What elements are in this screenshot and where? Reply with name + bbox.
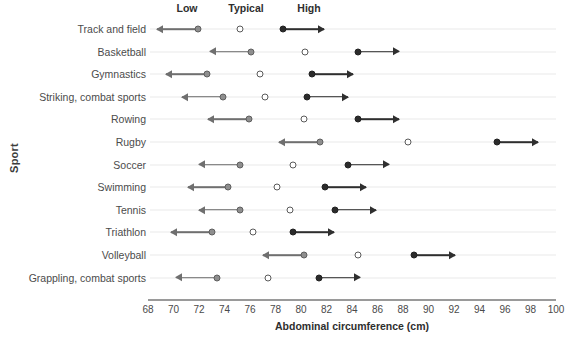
high-marker-dot [411, 252, 418, 259]
sport-row: Track and field [0, 18, 570, 40]
arrow-right-head-icon [393, 48, 400, 56]
arrow-right-head-icon [328, 228, 335, 236]
row-gridline [150, 29, 556, 30]
sport-row: Tennis [0, 199, 570, 221]
arrow-left-head-icon [165, 70, 172, 78]
arrow-left-head-icon [207, 115, 214, 123]
low-marker-dot [317, 139, 324, 146]
high-range-arrow [348, 164, 389, 166]
high-marker-dot [355, 48, 362, 55]
typical-marker-dot [355, 252, 362, 259]
x-tick-label: 84 [346, 304, 357, 315]
low-range-arrow [182, 96, 223, 98]
typical-marker-dot [273, 184, 280, 191]
sport-row: Soccer [0, 154, 570, 176]
high-marker-dot [322, 184, 329, 191]
low-marker-dot [220, 93, 227, 100]
sport-row-label: Basketball [98, 46, 146, 58]
typical-marker-dot [286, 206, 293, 213]
x-tick-label: 92 [448, 304, 459, 315]
arrow-left-head-icon [198, 161, 205, 169]
typical-marker-dot [301, 48, 308, 55]
arrow-right-head-icon [449, 251, 456, 259]
x-tick-label: 80 [295, 304, 306, 315]
low-marker-dot [208, 229, 215, 236]
high-marker-dot [304, 93, 311, 100]
arrow-left-head-icon [175, 274, 182, 282]
typical-marker-dot [262, 93, 269, 100]
typical-marker-dot [300, 116, 307, 123]
arrow-left-head-icon [262, 251, 269, 259]
arrow-right-head-icon [370, 206, 377, 214]
low-range-arrow [199, 209, 240, 211]
low-range-arrow [171, 232, 212, 234]
high-range-arrow [312, 73, 353, 75]
arrow-right-head-icon [532, 138, 539, 146]
sport-row: Swimming [0, 176, 570, 198]
arrow-left-head-icon [278, 138, 285, 146]
x-axis-title: Abdominal circumference (cm) [275, 320, 429, 332]
column-header-low: Low [177, 2, 198, 14]
sport-row-label: Tennis [116, 204, 146, 216]
high-range-arrow [307, 96, 348, 98]
sport-row: Gymnastics [0, 63, 570, 85]
arrow-left-head-icon [181, 93, 188, 101]
arrow-right-head-icon [360, 183, 367, 191]
low-range-arrow [157, 28, 198, 30]
sport-row-label: Triathlon [106, 226, 146, 238]
x-tick-label: 90 [423, 304, 434, 315]
x-tick-label: 86 [372, 304, 383, 315]
sport-row-label: Track and field [78, 23, 146, 35]
x-tick-label: 68 [142, 304, 153, 315]
arrow-right-head-icon [347, 70, 354, 78]
arrow-left-head-icon [209, 48, 216, 56]
high-range-arrow [414, 254, 455, 256]
low-range-arrow [176, 277, 217, 279]
low-marker-dot [245, 116, 252, 123]
arrow-left-head-icon [187, 183, 194, 191]
low-range-arrow [199, 164, 240, 166]
x-tick-label: 96 [499, 304, 510, 315]
low-range-arrow [208, 119, 249, 121]
typical-marker-dot [290, 161, 297, 168]
arrow-right-head-icon [383, 161, 390, 169]
x-tick-label: 88 [397, 304, 408, 315]
sport-row-label: Rowing [111, 113, 146, 125]
low-range-arrow [166, 73, 207, 75]
low-marker-dot [236, 206, 243, 213]
sport-row: Rowing [0, 108, 570, 130]
high-marker-dot [309, 71, 316, 78]
high-range-arrow [293, 232, 334, 234]
chart-root: Sport LowTypicalHigh Track and fieldBask… [0, 0, 570, 345]
low-marker-dot [236, 161, 243, 168]
low-marker-dot [203, 71, 210, 78]
sport-row-label: Gymnastics [91, 68, 146, 80]
x-tick-label: 98 [525, 304, 536, 315]
arrow-right-head-icon [318, 25, 325, 33]
sport-row: Rugby [0, 131, 570, 153]
sport-row-label: Striking, combat sports [39, 91, 146, 103]
sport-row-label: Swimming [98, 181, 146, 193]
x-tick-label: 74 [219, 304, 230, 315]
low-marker-dot [300, 252, 307, 259]
low-marker-dot [225, 184, 232, 191]
typical-marker-dot [405, 139, 412, 146]
x-tick-label: 72 [193, 304, 204, 315]
sport-row-label: Rugby [116, 136, 146, 148]
arrow-right-head-icon [354, 274, 361, 282]
x-tick-label: 100 [548, 304, 565, 315]
typical-marker-dot [257, 71, 264, 78]
x-tick-label: 94 [474, 304, 485, 315]
sport-row: Basketball [0, 41, 570, 63]
high-range-arrow [358, 119, 399, 121]
typical-marker-dot [264, 274, 271, 281]
low-range-arrow [263, 254, 304, 256]
high-marker-dot [315, 274, 322, 281]
x-tick-label: 70 [168, 304, 179, 315]
sport-row: Triathlon [0, 221, 570, 243]
high-marker-dot [290, 229, 297, 236]
low-marker-dot [248, 48, 255, 55]
arrow-left-head-icon [198, 206, 205, 214]
column-header-typical: Typical [228, 2, 263, 14]
x-tick-label: 82 [321, 304, 332, 315]
